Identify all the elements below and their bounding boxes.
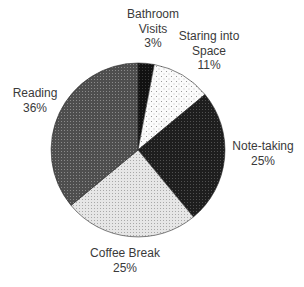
label-value: 36%: [13, 101, 58, 116]
label-value: 25%: [90, 261, 160, 276]
pie-slices: [51, 63, 225, 237]
label-text: Bathroom: [127, 7, 179, 22]
label-value: 11%: [179, 58, 240, 73]
label-text: Reading: [13, 86, 58, 101]
label-value: 3%: [127, 36, 179, 51]
label-note-taking: Note-taking 25%: [232, 139, 293, 168]
label-text: Note-taking: [232, 139, 293, 154]
label-staring-into-space: Staring into Space 11%: [179, 29, 240, 73]
label-value: 25%: [232, 154, 293, 169]
label-bathroom-visits: Bathroom Visits 3%: [127, 7, 179, 51]
label-text: Visits: [127, 22, 179, 37]
label-text: Space: [179, 44, 240, 59]
label-reading: Reading 36%: [13, 86, 58, 115]
label-text: Staring into: [179, 29, 240, 44]
label-coffee-break: Coffee Break 25%: [90, 246, 160, 275]
label-text: Coffee Break: [90, 246, 160, 261]
